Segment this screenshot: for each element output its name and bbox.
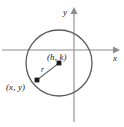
radius-label: r (41, 66, 44, 74)
circle-point-marker (35, 78, 40, 83)
circle-equation-figure: (h, k) (x, y) r y x (0, 0, 124, 127)
figure-canvas (0, 0, 124, 127)
y-axis-label: y (63, 8, 67, 17)
x-axis-label: x (113, 54, 117, 63)
y-axis-arrowhead (71, 7, 78, 14)
center-point-label: (h, k) (47, 53, 67, 62)
circle-point-label: (x, y) (6, 83, 25, 92)
